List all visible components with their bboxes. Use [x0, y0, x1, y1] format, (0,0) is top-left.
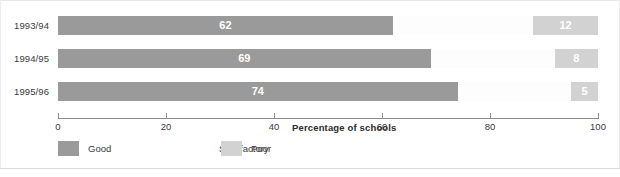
axis-tick: [598, 113, 599, 119]
bar-segment-satisfactory: [431, 49, 555, 68]
bar-row: 745: [58, 82, 598, 101]
bar-segment-good: 62: [58, 16, 393, 35]
frame-left-rule: [0, 0, 1, 168]
axis-tick: [382, 113, 383, 119]
bar-segment-good: 69: [58, 49, 431, 68]
axis-tick-label: 100: [590, 121, 606, 132]
category-label-1995-96: 1995/96: [14, 86, 54, 97]
value-axis-line: [58, 118, 598, 119]
frame-top-rule: [0, 0, 620, 1]
bar-row: 6212: [58, 16, 598, 35]
bar-segment-satisfactory: [393, 16, 533, 35]
bar-segment-poor: 5: [571, 82, 598, 101]
bar-segment-satisfactory: [458, 82, 571, 101]
bar-row: 698: [58, 49, 598, 68]
axis-tick: [166, 113, 167, 119]
bar-value-label: 74: [252, 85, 264, 97]
bar-value-label: 62: [219, 19, 231, 31]
axis-tick-label: 20: [161, 121, 172, 132]
axis-tick: [58, 113, 59, 119]
bar-value-label: 5: [581, 85, 587, 97]
x-axis-title: Percentage of schools: [292, 122, 397, 133]
plot-area: 6212698745: [58, 16, 598, 114]
legend-swatch-good: [58, 141, 79, 156]
bar-segment-good: 74: [58, 82, 458, 101]
bar-segment-poor: 8: [555, 49, 598, 68]
axis-tick-label: 0: [55, 121, 60, 132]
bar-segment-poor: 12: [533, 16, 598, 35]
legend-swatch-poor: [221, 141, 242, 156]
frame-bottom-rule: [0, 168, 620, 169]
category-label-1994-95: 1994/95: [14, 53, 54, 64]
axis-tick-label: 40: [269, 121, 280, 132]
legend-label: Good: [88, 140, 111, 158]
stacked-bar-chart: 1993/941994/951995/96 6212698745 0204060…: [0, 0, 620, 177]
axis-tick: [274, 113, 275, 119]
bar-value-label: 69: [238, 52, 250, 64]
category-label-1993-94: 1993/94: [14, 20, 54, 31]
legend-swatch-satisfactory: [189, 141, 210, 156]
legend-label: Poor: [251, 140, 271, 158]
bar-value-label: 8: [573, 52, 579, 64]
axis-tick-label: 80: [485, 121, 496, 132]
bar-value-label: 12: [559, 19, 571, 31]
axis-tick: [490, 113, 491, 119]
